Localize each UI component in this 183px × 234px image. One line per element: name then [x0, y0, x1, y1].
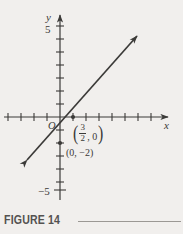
y-tick-label-minus5: −5 — [38, 186, 50, 197]
x-axis — [4, 113, 168, 121]
figure-14: y x 5 −5 O (0, −2) ( 3 2 , 0 ) FIGURE 14 — [0, 0, 183, 234]
point-x-intercept — [71, 115, 75, 119]
x-intercept-label: ( 3 2 , 0 ) — [72, 123, 105, 143]
open-paren: ( — [73, 124, 78, 142]
fraction-numerator: 3 — [80, 123, 87, 132]
y-axis — [54, 15, 66, 200]
y-tick-label-5: 5 — [45, 24, 51, 35]
origin-label: O — [48, 121, 56, 132]
fraction-three-halves: 3 2 — [79, 123, 86, 143]
fraction-denominator: 2 — [80, 134, 87, 143]
figure-caption: FIGURE 14 — [0, 206, 183, 234]
figure-caption-text: FIGURE 14 — [4, 213, 60, 227]
close-paren: ) — [98, 124, 103, 142]
comma-zero: , 0 — [87, 132, 97, 143]
caption-rule — [78, 221, 181, 222]
coordinate-plane: y x 5 −5 O (0, −2) ( 3 2 , 0 ) — [0, 0, 183, 205]
coordinate-plane-svg — [0, 0, 183, 205]
y-intercept-label: (0, −2) — [66, 148, 93, 158]
y-axis-label: y — [46, 12, 51, 23]
point-y-intercept — [58, 141, 62, 145]
x-axis-label: x — [164, 120, 169, 131]
